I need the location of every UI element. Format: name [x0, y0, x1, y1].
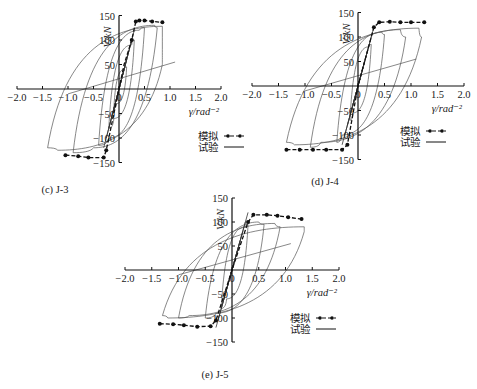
- data-marker: [143, 18, 147, 22]
- x-tick-label: 1.0: [279, 273, 292, 284]
- panel-caption: (c) J-3: [41, 184, 68, 196]
- x-tick-label: −1.5: [142, 273, 161, 284]
- y-tick-label: 150: [338, 8, 354, 19]
- data-marker: [300, 217, 304, 221]
- data-marker: [422, 20, 426, 24]
- x-tick-label: 2.0: [214, 92, 227, 103]
- y-tick-label: 50: [344, 57, 355, 68]
- data-marker: [160, 20, 164, 24]
- x-tick-label: −0.5: [84, 92, 103, 103]
- x-tick-label: 0.5: [138, 92, 151, 103]
- data-marker: [388, 20, 392, 24]
- x-tick-label: −2.0: [7, 92, 26, 103]
- chart-panel-c: −2.0−1.5−1.0−0.500.51.01.52.0−150−100−50…: [7, 11, 244, 197]
- x-tick-label: 1.5: [189, 92, 202, 103]
- x-tick-label: 2.0: [457, 89, 470, 100]
- data-marker: [171, 322, 175, 326]
- data-marker: [86, 156, 90, 160]
- x-tick-label: −0.5: [196, 273, 215, 284]
- legend: 模拟试验: [400, 125, 446, 148]
- y-tick-label: −150: [332, 155, 354, 166]
- x-tick-label: 0: [116, 92, 121, 103]
- x-tick-label: 1.0: [163, 92, 176, 103]
- data-marker: [104, 148, 108, 152]
- x-tick-label: 0: [229, 273, 234, 284]
- chart-panel-d: −2.0−1.5−1.0−0.500.51.01.52.0−150−100−50…: [242, 8, 470, 189]
- y-tick-label: −100: [332, 130, 354, 141]
- data-marker: [275, 214, 279, 218]
- x-tick-label: −1.0: [295, 89, 314, 100]
- figure: −2.0−1.5−1.0−0.500.51.01.52.0−150−100−50…: [0, 0, 477, 389]
- legend-label-simulation: 模拟: [198, 130, 219, 142]
- data-marker: [195, 325, 199, 329]
- y-tick-label: −100: [93, 133, 115, 144]
- data-marker: [372, 25, 376, 29]
- data-marker: [214, 318, 218, 322]
- data-marker: [265, 213, 269, 217]
- panel-caption: (d) J-4: [311, 176, 339, 188]
- x-axis-title: γ/rad⁻²: [189, 106, 220, 117]
- y-axis-title: V/kN: [102, 26, 113, 48]
- data-marker: [182, 323, 186, 327]
- x-tick-label: 1.5: [431, 89, 444, 100]
- data-marker: [246, 220, 250, 224]
- x-axis-title: γ/rad⁻²: [432, 103, 463, 114]
- legend-label-test: 试验: [290, 323, 311, 335]
- x-tick-label: 1.5: [306, 273, 319, 284]
- legend: 模拟试验: [198, 130, 244, 153]
- data-marker: [324, 148, 328, 152]
- legend-label-simulation: 模拟: [290, 312, 311, 324]
- x-tick-label: −1.0: [58, 92, 77, 103]
- data-marker: [209, 324, 213, 328]
- x-tick-label: 0.5: [378, 89, 391, 100]
- data-marker: [137, 18, 141, 22]
- x-tick-label: −0.5: [322, 89, 341, 100]
- axes: −2.0−1.5−1.0−0.500.51.01.52.0−150−100−50…: [115, 193, 345, 348]
- legend-label-simulation: 模拟: [400, 125, 421, 137]
- data-marker: [377, 20, 381, 24]
- legend-label-test: 试验: [198, 141, 219, 153]
- data-marker: [130, 38, 134, 42]
- data-marker: [134, 19, 138, 23]
- data-marker: [311, 148, 315, 152]
- y-tick-label: 150: [212, 193, 228, 204]
- data-marker: [298, 148, 302, 152]
- y-tick-label: 50: [218, 241, 229, 252]
- y-tick-label: −50: [338, 106, 354, 117]
- y-tick-label: −150: [206, 337, 228, 348]
- data-marker: [345, 143, 349, 147]
- x-tick-label: 1.0: [404, 89, 417, 100]
- data-marker: [150, 19, 154, 23]
- y-tick-label: 50: [105, 60, 116, 71]
- data-marker: [251, 213, 255, 217]
- chart-panel-e: −2.0−1.5−1.0−0.500.51.01.52.0−150−100−50…: [115, 193, 345, 381]
- data-marker: [158, 322, 162, 326]
- legend-label-test: 试验: [400, 136, 421, 148]
- x-tick-label: −2.0: [242, 89, 261, 100]
- data-marker: [409, 20, 413, 24]
- data-marker: [102, 156, 106, 160]
- x-axis-title: γ/rad⁻²: [307, 287, 338, 298]
- data-marker: [398, 20, 402, 24]
- x-tick-label: −1.5: [269, 89, 288, 100]
- x-tick-label: −1.5: [33, 92, 52, 103]
- x-tick-label: 2.0: [332, 273, 345, 284]
- legend: 模拟试验: [290, 312, 336, 335]
- y-axis-title: V/kN: [341, 23, 352, 45]
- data-marker: [286, 215, 290, 219]
- x-tick-label: 0.5: [252, 273, 265, 284]
- data-marker: [284, 148, 288, 152]
- data-marker: [340, 148, 344, 152]
- panel-caption: (e) J-5: [201, 369, 228, 381]
- data-marker: [76, 154, 80, 158]
- x-tick-label: −1.0: [169, 273, 188, 284]
- x-tick-label: −2.0: [115, 273, 134, 284]
- y-axis-title: V/kN: [215, 208, 226, 230]
- data-marker: [63, 153, 67, 157]
- y-tick-label: 150: [99, 11, 115, 22]
